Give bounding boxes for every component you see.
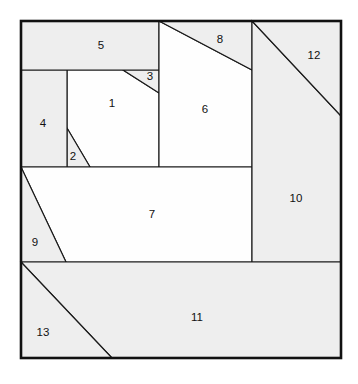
region-label-13: 13 (37, 326, 50, 338)
region-label-8: 8 (217, 33, 223, 45)
regions-layer (21, 21, 341, 358)
region-label-5: 5 (98, 39, 104, 51)
region-label-4: 4 (40, 117, 47, 129)
square-dissection-figure: 12345678910111213 (0, 0, 358, 384)
region-label-10: 10 (290, 192, 303, 204)
region-label-9: 9 (32, 236, 38, 248)
region-label-2: 2 (70, 150, 76, 162)
region-label-6: 6 (202, 103, 208, 115)
region-label-1: 1 (109, 97, 115, 109)
region-5 (21, 21, 159, 70)
region-label-7: 7 (149, 208, 155, 220)
region-label-12: 12 (308, 49, 321, 61)
region-label-11: 11 (191, 311, 203, 323)
region-label-3: 3 (147, 70, 153, 82)
diagram-container: 12345678910111213 (0, 0, 358, 384)
